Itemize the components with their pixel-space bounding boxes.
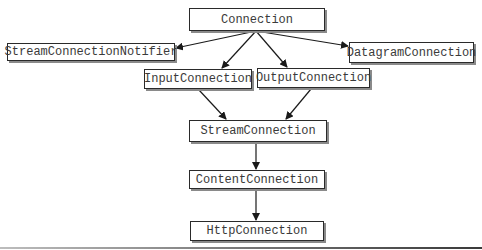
arrow-connection-to-datagramconnection xyxy=(256,31,348,46)
arrow-outputconnection-to-streamconnection xyxy=(286,89,311,119)
arrow-connection-to-streamconnectionnotifier xyxy=(176,31,256,48)
node-input-connection: InputConnection xyxy=(144,69,252,89)
bottom-divider xyxy=(0,247,482,249)
node-stream-connection: StreamConnection xyxy=(189,120,327,142)
node-label: StreamConnectionNotifier xyxy=(5,45,178,59)
arrow-connection-to-outputconnection xyxy=(256,31,287,67)
node-datagram-connection: DatagramConnection xyxy=(349,42,474,63)
arrow-inputconnection-to-streamconnection xyxy=(199,90,226,119)
node-label: DatagramConnection xyxy=(347,46,477,60)
node-connection: Connection xyxy=(189,8,325,31)
node-http-connection: HttpConnection xyxy=(190,221,324,241)
node-label: Connection xyxy=(221,13,293,27)
node-content-connection: ContentConnection xyxy=(189,170,325,189)
node-label: HttpConnection xyxy=(207,224,308,238)
node-stream-connection-notifier: StreamConnectionNotifier xyxy=(7,43,175,61)
node-output-connection: OutputConnection xyxy=(257,68,370,88)
node-label: InputConnection xyxy=(144,72,252,86)
diagram-canvas: Connection StreamConnectionNotifier Data… xyxy=(0,0,482,250)
node-label: ContentConnection xyxy=(196,173,318,187)
node-label: OutputConnection xyxy=(256,71,371,85)
node-label: StreamConnection xyxy=(200,124,315,138)
